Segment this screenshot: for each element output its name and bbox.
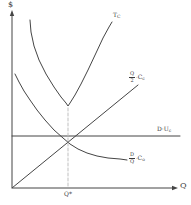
carrying-cost-fraction: Q 2 — [129, 71, 135, 83]
carrying-cost-label: Q 2 ·Cc — [129, 71, 145, 83]
y-axis-label: $ — [8, 1, 13, 9]
purchase-cost-subscript: c — [169, 128, 172, 133]
total-cost-curve — [30, 20, 112, 106]
fraction-denominator: 2 — [130, 78, 133, 84]
x-axis-arrow-icon — [172, 186, 178, 190]
purchase-cost-symbol: D·U — [157, 125, 169, 132]
x-axis-label: Q — [180, 182, 187, 190]
ordering-cost-fraction: D Q — [129, 152, 135, 164]
ordering-cost-label: D Q ·Co — [129, 152, 145, 164]
curves-group — [12, 20, 180, 188]
optimum-quantity-label: Q* — [61, 191, 75, 197]
eoq-cost-diagram: $ Q Q* TC Q 2 ·Cc D·Uc D Q ·Co — [0, 0, 191, 205]
ordering-cost-curve — [15, 74, 127, 160]
ordering-cost-subscript: o — [142, 157, 145, 162]
total-cost-label: TC — [113, 12, 120, 20]
fraction-denominator: Q — [130, 159, 134, 165]
carrying-cost-subscript: c — [142, 76, 145, 81]
y-axis-arrow-icon — [10, 10, 14, 16]
total-cost-subscript: C — [117, 14, 120, 19]
purchase-cost-label: D·Uc — [157, 126, 171, 134]
plot-canvas — [0, 0, 191, 205]
